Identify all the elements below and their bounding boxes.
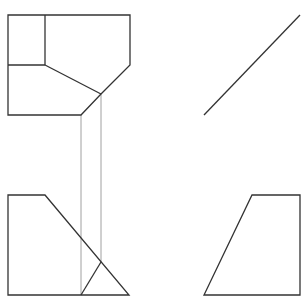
projection-lines [81, 94, 101, 295]
miter-line [204, 15, 300, 115]
top-inner-line-3 [45, 65, 101, 94]
orthographic-drawing [0, 0, 308, 303]
front-view [8, 195, 129, 295]
side-view-outline [204, 195, 300, 295]
front-inner-line-1 [81, 262, 101, 295]
top-view [8, 15, 130, 115]
side-view [204, 195, 300, 295]
front-view-outline [8, 195, 129, 295]
